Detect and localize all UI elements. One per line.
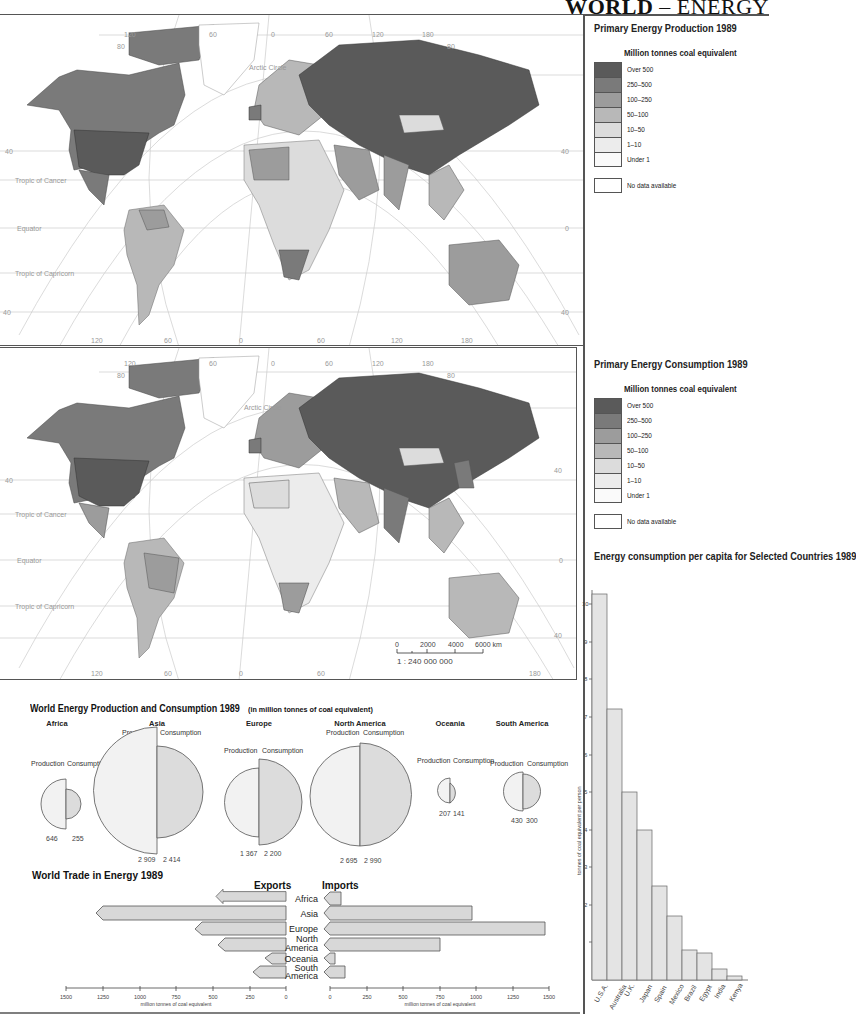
svg-text:0: 0 bbox=[271, 360, 275, 367]
svg-text:U.S.A.: U.S.A. bbox=[593, 982, 609, 1003]
svg-text:Asia: Asia bbox=[300, 909, 318, 919]
svg-text:60: 60 bbox=[325, 360, 333, 367]
svg-text:2 909: 2 909 bbox=[138, 856, 156, 863]
svg-text:Africa: Africa bbox=[295, 894, 318, 904]
svg-text:Spain: Spain bbox=[653, 984, 669, 1004]
export-arrows bbox=[96, 889, 286, 978]
svg-text:120: 120 bbox=[372, 360, 384, 367]
consumption-map-graphic: 120 60 0 60 120 180 80 Arctic Circle 40 … bbox=[0, 348, 577, 680]
svg-text:40: 40 bbox=[5, 477, 13, 484]
svg-text:180: 180 bbox=[422, 360, 434, 367]
svg-text:Mexico: Mexico bbox=[668, 983, 685, 1006]
svg-text:Egypt: Egypt bbox=[698, 983, 714, 1003]
svg-text:Arctic Circle: Arctic Circle bbox=[244, 404, 281, 411]
import-arrows bbox=[324, 892, 545, 978]
svg-text:Consumption: Consumption bbox=[363, 729, 404, 737]
svg-text:Consumption: Consumption bbox=[527, 760, 568, 768]
svg-text:Tropic of Capricorn: Tropic of Capricorn bbox=[15, 603, 74, 611]
svg-text:Japan: Japan bbox=[638, 983, 655, 1004]
production-map-graphic: 120 60 0 60 120 180 80 Arctic Circle 40 … bbox=[0, 15, 584, 346]
svg-text:6: 6 bbox=[584, 752, 588, 758]
svg-text:180: 180 bbox=[461, 337, 473, 344]
svg-text:9: 9 bbox=[584, 639, 588, 645]
trade-chart: World Trade in Energy 1989 Exports Impor… bbox=[0, 868, 580, 1016]
svg-text:40: 40 bbox=[561, 148, 569, 155]
svg-text:4000: 4000 bbox=[448, 641, 464, 648]
svg-text:180: 180 bbox=[422, 31, 434, 38]
svg-text:180: 180 bbox=[529, 670, 541, 677]
svg-text:500: 500 bbox=[398, 994, 407, 1000]
svg-text:2 990: 2 990 bbox=[364, 857, 382, 864]
production-legend: Primary Energy Production 1989 Million t… bbox=[594, 22, 769, 193]
svg-text:0: 0 bbox=[284, 994, 287, 1000]
svg-text:Africa: Africa bbox=[46, 719, 68, 728]
svg-text:300: 300 bbox=[526, 817, 538, 824]
svg-text:40: 40 bbox=[561, 309, 569, 316]
svg-text:Consumption: Consumption bbox=[453, 757, 494, 765]
svg-text:40: 40 bbox=[5, 148, 13, 155]
svg-text:250: 250 bbox=[362, 994, 371, 1000]
svg-text:60: 60 bbox=[317, 337, 325, 344]
consumption-legend-unit: Million tonnes coal equivalent bbox=[624, 384, 752, 394]
svg-text:Exports: Exports bbox=[254, 880, 292, 891]
svg-text:500: 500 bbox=[208, 994, 217, 1000]
svg-text:141: 141 bbox=[453, 810, 465, 817]
svg-text:60: 60 bbox=[164, 337, 172, 344]
svg-text:Production: Production bbox=[31, 760, 65, 767]
svg-text:120: 120 bbox=[124, 31, 136, 38]
svg-text:10: 10 bbox=[582, 601, 589, 607]
svg-text:0: 0 bbox=[271, 31, 275, 38]
svg-text:America: America bbox=[285, 971, 318, 981]
page-title: WORLD – ENERGY bbox=[565, 0, 769, 20]
per-capita-bar-chart: 10 9 8 7 6 5 4 3 2 tonnes of coal equiva… bbox=[576, 585, 769, 1016]
svg-text:80: 80 bbox=[117, 372, 125, 379]
svg-text:2000: 2000 bbox=[420, 641, 436, 648]
svg-text:750: 750 bbox=[171, 994, 180, 1000]
svg-text:2 200: 2 200 bbox=[264, 850, 282, 857]
per-capita-chart-title: Energy consumption per capita for Select… bbox=[594, 550, 764, 562]
svg-text:40: 40 bbox=[554, 467, 562, 474]
svg-text:Consumption: Consumption bbox=[160, 729, 201, 737]
svg-text:Equator: Equator bbox=[17, 557, 42, 565]
svg-text:2 414: 2 414 bbox=[163, 856, 181, 863]
svg-text:120: 120 bbox=[372, 31, 384, 38]
svg-text:120: 120 bbox=[91, 337, 103, 344]
svg-text:Tropic of Cancer: Tropic of Cancer bbox=[15, 177, 67, 185]
svg-text:Equator: Equator bbox=[17, 225, 42, 233]
svg-text:1 : 240 000 000: 1 : 240 000 000 bbox=[397, 657, 453, 666]
consumption-legend: Primary Energy Consumption 1989 Million … bbox=[594, 358, 769, 529]
svg-text:Europe: Europe bbox=[289, 924, 318, 934]
svg-text:America: America bbox=[285, 943, 318, 953]
svg-text:80: 80 bbox=[447, 372, 455, 379]
svg-text:million tonnes of coal equival: million tonnes of coal equivalent bbox=[141, 1001, 212, 1007]
svg-text:750: 750 bbox=[435, 994, 444, 1000]
svg-text:0: 0 bbox=[239, 337, 243, 344]
svg-text:120: 120 bbox=[391, 337, 403, 344]
svg-text:40: 40 bbox=[3, 309, 11, 316]
svg-text:Asia: Asia bbox=[149, 719, 166, 728]
svg-text:1500: 1500 bbox=[543, 994, 555, 1000]
svg-text:Imports: Imports bbox=[322, 880, 359, 891]
svg-text:1 367: 1 367 bbox=[240, 850, 258, 857]
svg-text:0: 0 bbox=[559, 557, 563, 564]
svg-text:U.K.: U.K. bbox=[623, 982, 636, 997]
consumption-map: 120 60 0 60 120 180 80 Arctic Circle 40 … bbox=[0, 347, 577, 680]
svg-text:6000 km: 6000 km bbox=[475, 641, 502, 648]
svg-text:80: 80 bbox=[447, 43, 455, 50]
production-legend-unit: Million tonnes coal equivalent bbox=[624, 48, 752, 58]
svg-text:60: 60 bbox=[209, 360, 217, 367]
svg-text:Production: Production bbox=[490, 760, 524, 767]
svg-text:8: 8 bbox=[584, 676, 588, 682]
svg-text:3: 3 bbox=[584, 864, 588, 870]
production-map: 120 60 0 60 120 180 80 Arctic Circle 40 … bbox=[0, 14, 584, 346]
svg-text:1500: 1500 bbox=[60, 994, 72, 1000]
svg-text:60: 60 bbox=[325, 31, 333, 38]
svg-text:Oceania: Oceania bbox=[435, 719, 465, 728]
svg-text:60: 60 bbox=[317, 670, 325, 677]
svg-text:207: 207 bbox=[439, 810, 451, 817]
svg-text:0: 0 bbox=[239, 670, 243, 677]
scale-bar: 0 2000 4000 6000 km 1 : 240 000 000 bbox=[395, 641, 502, 666]
svg-text:4: 4 bbox=[584, 827, 588, 833]
bars bbox=[592, 594, 742, 980]
prod-cons-circles: Africa Production Consumption 646 255 As… bbox=[0, 715, 580, 865]
